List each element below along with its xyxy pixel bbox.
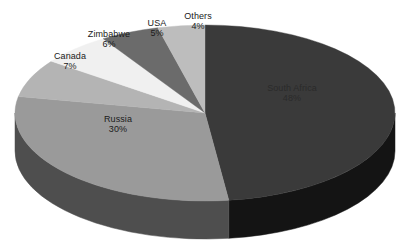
slice-label-others: Others 4%	[176, 11, 220, 31]
slice-label-south-africa: South Africa 48%	[256, 83, 328, 103]
slice-label-name-usa: USA	[140, 18, 174, 28]
slice-label-zimbabwe: Zimbabwe 6%	[76, 29, 142, 49]
slice-label-usa: USA 5%	[140, 18, 174, 38]
slice-label-percent-usa: 5%	[140, 28, 174, 38]
slice-label-name-zimbabwe: Zimbabwe	[76, 29, 142, 39]
slice-label-name-russia: Russia	[88, 114, 148, 124]
slice-label-name-south-africa: South Africa	[256, 83, 328, 93]
slice-label-russia: Russia 30%	[88, 114, 148, 134]
pie-chart: South Africa 48% Russia 30% Canada 7% Zi…	[0, 0, 409, 250]
slice-label-name-canada: Canada	[40, 51, 100, 61]
slice-label-percent-zimbabwe: 6%	[76, 39, 142, 49]
slice-label-name-others: Others	[176, 11, 220, 21]
slice-label-percent-others: 4%	[176, 21, 220, 31]
pie-chart-canvas	[0, 0, 409, 250]
slice-label-percent-canada: 7%	[40, 61, 100, 71]
slice-label-percent-south-africa: 48%	[256, 93, 328, 103]
slice-label-canada: Canada 7%	[40, 51, 100, 71]
slice-label-percent-russia: 30%	[88, 124, 148, 134]
